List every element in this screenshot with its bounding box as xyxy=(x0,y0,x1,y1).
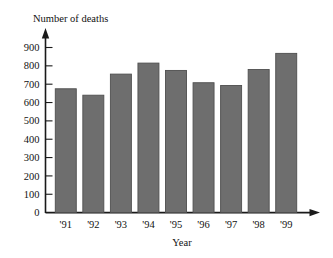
y-axis-tick-label: 700 xyxy=(24,79,40,90)
y-axis-arrow-icon xyxy=(42,28,49,39)
x-axis-tick-label: '96 xyxy=(197,219,209,230)
bar-y95 xyxy=(166,70,187,212)
bar-y99 xyxy=(276,53,297,212)
bar-y96 xyxy=(193,83,214,213)
x-axis-title: Year xyxy=(172,237,192,248)
y-axis-tick-label: 600 xyxy=(24,97,40,108)
x-axis-tick-label: '93 xyxy=(115,219,127,230)
x-axis-tick-label: '94 xyxy=(142,219,155,230)
bar-y92 xyxy=(83,95,104,212)
x-axis-tick-label: '92 xyxy=(87,219,99,230)
x-axis-tick-labels: '91'92'93'94'95'96'97'98'99 xyxy=(60,219,293,230)
y-axis-tick-label: 100 xyxy=(24,189,40,200)
bar-y93 xyxy=(110,74,131,213)
x-axis-arrow-icon xyxy=(310,209,321,216)
y-axis-tick-label: 0 xyxy=(34,207,39,218)
chart-canvas: Number of deaths 01002003004005006007008… xyxy=(0,0,333,258)
bars-group xyxy=(55,53,296,212)
y-axis-title: Number of deaths xyxy=(33,13,108,24)
x-axis-tick-label: '99 xyxy=(280,219,292,230)
y-axis-tick-label: 300 xyxy=(24,152,40,163)
bar-chart: Number of deaths 01002003004005006007008… xyxy=(0,0,333,258)
bar-y97 xyxy=(221,85,242,212)
bar-y94 xyxy=(138,63,159,213)
y-axis-tick-label: 200 xyxy=(24,171,40,182)
x-axis-tick-label: '91 xyxy=(60,219,72,230)
y-axis-tick-label: 800 xyxy=(24,60,40,71)
y-axis-tick-label: 500 xyxy=(24,115,40,126)
bar-y98 xyxy=(248,70,269,213)
x-axis-tick-label: '97 xyxy=(225,219,237,230)
x-axis-tick-label: '98 xyxy=(252,219,264,230)
y-axis-tick-label: 400 xyxy=(24,134,40,145)
y-axis-tick-label: 900 xyxy=(24,42,40,53)
bar-y91 xyxy=(55,89,76,213)
y-axis-ticks: 0100200300400500600700800900 xyxy=(24,42,53,218)
x-axis-tick-label: '95 xyxy=(170,219,182,230)
